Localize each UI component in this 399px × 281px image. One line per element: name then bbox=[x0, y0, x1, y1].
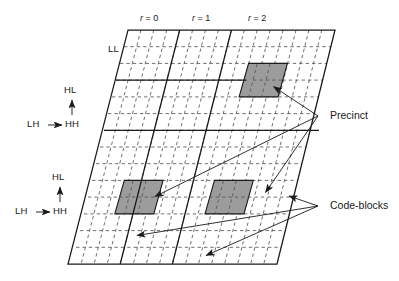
subband-label-hh-lower: HH bbox=[53, 206, 67, 216]
subband-label-ll: LL bbox=[108, 44, 119, 54]
precinct-arrow-2 bbox=[266, 116, 319, 193]
resolution-label-r1: r = 1 bbox=[192, 14, 210, 23]
callout-label-code-blocks: Code-blocks bbox=[330, 200, 388, 211]
precinct-arrow-1 bbox=[274, 87, 319, 117]
figure-container: r = 0 r = 1 r = 2 LL HL LH HH HL LH HH P… bbox=[0, 0, 399, 281]
code-block-grid bbox=[76, 30, 339, 264]
callout-arrows bbox=[137, 87, 318, 256]
resolution-label-r2: r = 2 bbox=[248, 14, 266, 23]
subband-precinct-diagram bbox=[0, 0, 399, 281]
subband-label-lh-lower: LH bbox=[15, 206, 28, 216]
subband-label-lh-upper: LH bbox=[27, 119, 40, 129]
callout-label-precinct: Precinct bbox=[330, 110, 368, 121]
shaded-regions bbox=[115, 63, 288, 214]
subband-direction-arrows bbox=[36, 100, 72, 212]
codeblock-arrow-1 bbox=[289, 196, 318, 206]
subband-label-hl-lower: HL bbox=[52, 172, 65, 182]
subband-label-hh-upper: HH bbox=[65, 119, 79, 129]
subband-label-hl-upper: HL bbox=[64, 85, 77, 95]
resolution-label-r0: r = 0 bbox=[140, 14, 158, 23]
